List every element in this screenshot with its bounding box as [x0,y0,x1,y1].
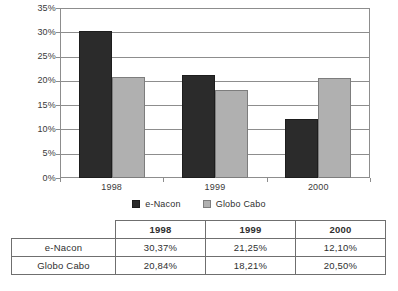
table-cell: 21,25% [206,239,296,257]
y-axis-tick-mark [56,8,60,9]
table-cell: 20,50% [296,257,386,275]
y-axis-tick-mark [56,32,60,33]
bar-e-nacon-2000 [285,119,318,178]
table-header-row: 199819992000 [12,221,386,239]
y-axis-tick-label: 5% [22,149,56,158]
bar-chart-figure: 35%30%25%20%15%10%5%0% 199819992000 e-Na… [0,0,398,291]
legend-swatch-icon [132,200,140,208]
data-table: 199819992000 e-Nacon30,37%21,25%12,10%Gl… [11,220,386,275]
legend-item: Globo Cabo [203,199,266,209]
chart-legend: e-NaconGlobo Cabo [0,197,398,211]
x-axis-tick-mark [163,178,164,182]
chart-area: 35%30%25%20%15%10%5%0% 199819992000 [0,0,398,192]
y-axis-tick-mark [56,105,60,106]
y-axis-tick-mark [56,57,60,58]
x-axis-category-label: 2000 [267,182,370,193]
bar-globo-cabo-1999 [215,90,248,178]
x-axis-category-label: 1999 [163,182,266,193]
y-axis-tick-labels: 35%30%25%20%15%10%5%0% [22,0,56,192]
y-axis-tick-label: 30% [22,28,56,37]
bar-series-container [60,8,370,178]
table-cell: 18,21% [206,257,296,275]
bar-e-nacon-1999 [182,75,215,178]
table-row: Globo Cabo20,84%18,21%20,50% [12,257,386,275]
legend-swatch-icon [203,200,211,208]
legend-item: e-Nacon [132,199,180,209]
y-axis-tick-label: 10% [22,125,56,134]
legend-label: e-Nacon [145,199,180,209]
bar-e-nacon-1998 [79,31,112,179]
bar-globo-cabo-2000 [318,78,351,178]
y-axis-tick-label: 35% [22,4,56,13]
x-axis-category-labels: 199819992000 [60,182,370,196]
table-row-label: Globo Cabo [12,257,116,275]
table-row: e-Nacon30,37%21,25%12,10% [12,239,386,257]
table-column-header: 2000 [296,221,386,239]
y-axis-tick-label: 25% [22,52,56,61]
bar-globo-cabo-1998 [112,77,145,178]
legend-label: Globo Cabo [216,199,266,209]
y-axis-tick-mark [56,154,60,155]
x-axis-category-label: 1998 [60,182,163,193]
table-body: e-Nacon30,37%21,25%12,10%Globo Cabo20,84… [12,239,386,275]
y-axis-tick-label: 20% [22,76,56,85]
y-axis-tick-mark [56,129,60,130]
y-axis-tick-mark [56,81,60,82]
x-axis-tick-mark [267,178,268,182]
x-axis-tick-mark [60,178,61,182]
x-axis-tick-mark [370,178,371,182]
table-cell: 30,37% [116,239,206,257]
table-column-header: 1999 [206,221,296,239]
table-cell: 12,10% [296,239,386,257]
y-axis-tick-label: 15% [22,101,56,110]
y-axis-tick-label: 0% [22,174,56,183]
table-corner-cell [12,221,116,239]
table-column-header: 1998 [116,221,206,239]
data-table-wrapper: 199819992000 e-Nacon30,37%21,25%12,10%Gl… [11,220,385,275]
table-cell: 20,84% [116,257,206,275]
table-row-label: e-Nacon [12,239,116,257]
